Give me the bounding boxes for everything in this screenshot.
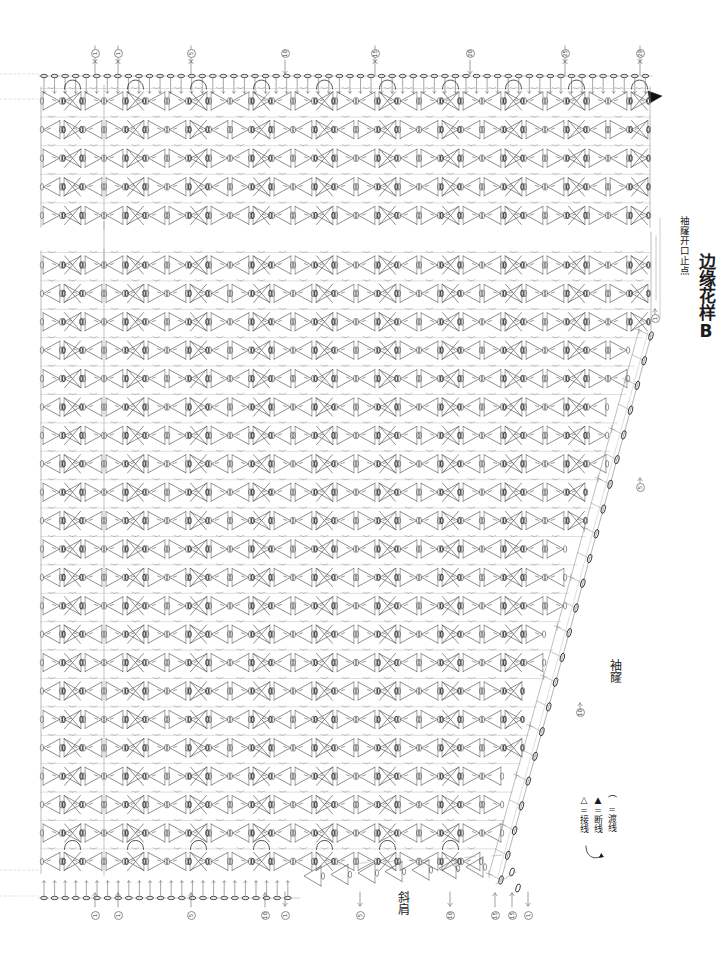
top-row-marker: 10 [281,49,290,58]
legend-text-join-thread: 接线 [579,815,589,833]
foundation-chain-row-bottom [39,855,521,900]
stitch-row [40,791,512,814]
legend-row-cut-thread: ▲=断线 [592,795,605,833]
stitch-row [40,251,650,274]
stitch-row [40,840,496,870]
bottom-row-marker: 15 [491,911,500,920]
bottom-row-marker: 10 [446,911,455,920]
marker-arrow [493,893,497,907]
stitch-row [40,535,585,558]
stitch-row [40,173,650,196]
stitch-row [40,819,504,842]
marker-arrow [526,892,530,906]
legend-row-join-thread: △=接线 [578,795,591,833]
stitch-row [40,479,601,502]
legend-equals: = [579,805,589,815]
side-marker: 10 [576,708,585,717]
label-edge-pattern-b: 边缘花样B [697,253,714,341]
marker-arrow [563,61,567,75]
marker-arrow [189,61,193,75]
stitch-row [40,734,528,757]
stitch-row [40,308,650,331]
legend-symbol-join-thread: △ [579,795,589,805]
stitch-row [40,592,569,615]
bottom-row-marker: 1 [524,911,533,920]
side-marker: 5 [636,483,645,492]
foundation-chain-row-top [39,74,652,93]
legend: △=接线▲=断线⌒=渡线 [578,795,628,865]
top-row-marker: 29 [636,49,645,58]
top-row-marker: 1 [91,49,100,58]
stitch-row [40,202,650,225]
yoke-top-block [40,80,650,229]
stitch-row [40,450,609,473]
legend-text-cut-thread: 断线 [593,815,603,833]
stitch-row [40,564,577,587]
legend-equals: = [593,805,603,815]
stitch-row [40,145,650,168]
stitch-row [40,422,617,445]
stitch-row [40,393,625,416]
stitch-row [40,116,650,139]
stitch-row [40,365,633,388]
marker-arrow [283,60,287,74]
body-main-block [40,249,650,875]
label-shoulder-slope: 斜肩 [396,891,408,915]
bottom-row-marker: 15 [508,911,517,920]
stitch-row [40,280,650,303]
top-row-marker: 25 [561,49,570,58]
stitch-row [40,337,642,360]
marker-arrow [468,60,472,74]
bottom-row-marker: 1 [114,911,123,920]
marker-arrow [283,892,287,906]
stitch-row [40,706,536,729]
chart-canvas: 边缘花样B 袖窿开口止点 袖窿 斜肩 △=接线▲=断线⌒=渡线 11510152… [0,0,717,970]
stitch-row [40,649,552,672]
stitch-row [40,507,593,530]
top-row-marker: 20 [466,49,475,58]
marker-arrow [116,893,120,907]
side-marker: 1 [651,314,660,323]
legend-symbol-cut-thread: ▲ [593,795,603,805]
stitch-row [40,621,561,644]
marker-arrow [93,61,97,75]
bottom-row-marker: 1 [91,911,100,920]
stitch-row [40,80,650,110]
legend-equals: = [607,804,617,814]
top-row-marker: 1 [114,49,123,58]
label-armhole: 袖窿 [608,659,620,683]
top-row-marker: 5 [187,49,196,58]
bottom-row-marker: 5 [187,911,196,920]
legend-symbol-carry-thread: ⌒ [607,795,617,804]
stitch-row [40,677,544,700]
top-row-marker: 15 [371,49,380,58]
stitch-row [40,763,520,786]
marker-arrow [116,61,120,75]
bottom-row-marker: 10 [261,911,270,920]
marker-arrow [448,892,452,906]
margin-guide-lines [0,74,38,896]
bottom-row-marker: 1 [281,911,290,920]
label-armhole-opening-stop: 袖窿开口止点 [679,216,689,276]
legend-row-carry-thread: ⌒=渡线 [606,795,619,832]
marker-arrow [638,61,642,75]
bottom-row-marker: 5 [356,911,365,920]
legend-text-carry-thread: 渡线 [607,814,617,832]
marker-arrow [510,893,514,907]
marker-arrow [358,892,362,906]
marker-arrow [373,61,377,75]
